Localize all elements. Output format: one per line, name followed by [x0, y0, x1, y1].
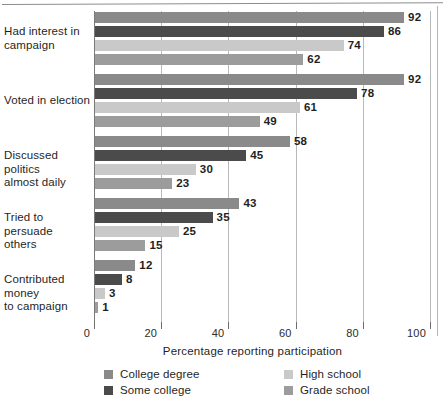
bar-value-label: 43 [239, 198, 256, 209]
axis-tick [228, 322, 229, 329]
axis-tick [363, 322, 364, 329]
bar-value-label: 61 [300, 102, 317, 113]
plot-area: 020406080100 928674629278614958453023433… [94, 11, 430, 322]
bar [95, 54, 303, 65]
bar-chart-figure: Had interest incampaignVoted in election… [0, 0, 445, 401]
bar-value-label: 62 [303, 54, 320, 65]
axis-tick-label: 40 [212, 327, 229, 339]
axis-tick [430, 322, 431, 329]
x-axis-title-text: Percentage reporting participation [103, 345, 342, 357]
bar [95, 74, 404, 85]
chart-legend: College degreeSome collegeHigh schoolGra… [104, 368, 404, 400]
axis-tick [94, 322, 95, 329]
bar-value-label: 86 [384, 26, 401, 37]
category-label-line: Contributed money [4, 273, 92, 300]
axis-tick-label: 20 [145, 327, 162, 339]
bar [95, 136, 290, 147]
axis-tick-label: 80 [346, 327, 363, 339]
legend-swatch-icon [284, 370, 293, 379]
bar-value-label: 74 [344, 40, 361, 51]
bar [95, 226, 179, 237]
category-label-line: others [4, 238, 92, 252]
bar [95, 26, 384, 37]
bar [95, 164, 196, 175]
category-label: Had interest incampaign [4, 25, 92, 52]
bar [95, 212, 213, 223]
category-axis-labels: Had interest incampaignVoted in election… [4, 11, 92, 322]
legend-label: Grade school [300, 384, 370, 396]
bar-value-label: 92 [404, 74, 421, 85]
category-label-line: to campaign [4, 300, 92, 314]
bar [95, 150, 246, 161]
bar-value-label: 25 [179, 226, 196, 237]
axis-tick [296, 322, 297, 329]
bar [95, 288, 105, 299]
bar-value-label: 30 [196, 164, 213, 175]
bar [95, 88, 357, 99]
category-label: Voted in election [4, 94, 92, 108]
bar-value-label: 1 [98, 302, 109, 313]
bar-value-label: 92 [404, 12, 421, 23]
bar [95, 260, 135, 271]
category-label-line: Had interest in [4, 25, 92, 39]
bar-value-label: 35 [213, 212, 230, 223]
legend-item[interactable]: College degree [104, 368, 199, 380]
bar-value-label: 12 [135, 260, 152, 271]
legend-swatch-icon [104, 386, 113, 395]
legend-item[interactable]: High school [284, 368, 361, 380]
page-edge-right-rule [437, 6, 438, 336]
bar-value-label: 23 [172, 178, 189, 189]
legend-swatch-icon [104, 370, 113, 379]
bar [95, 12, 404, 23]
bar [95, 274, 122, 285]
axis-tick [161, 322, 162, 329]
bar [95, 40, 344, 51]
bar-value-label: 58 [290, 136, 307, 147]
bar [95, 198, 239, 209]
gridline [430, 11, 431, 322]
bar-value-label: 3 [105, 288, 116, 299]
legend-label: College degree [120, 368, 199, 380]
category-label-line: Voted in election [4, 94, 92, 108]
x-axis-title: Percentage reporting participation [0, 345, 445, 357]
page-edge-top-rule [2, 2, 443, 5]
axis-tick-label: 60 [279, 327, 296, 339]
category-label-line: campaign [4, 39, 92, 53]
category-label-line: almost daily [4, 176, 92, 190]
legend-item[interactable]: Grade school [284, 384, 370, 396]
bar [95, 240, 145, 251]
bar-value-label: 15 [145, 240, 162, 251]
bar-value-label: 49 [260, 116, 277, 127]
bar-value-label: 78 [357, 88, 374, 99]
legend-item[interactable]: Some college [104, 384, 191, 396]
bar [95, 116, 260, 127]
bar [95, 178, 172, 189]
legend-label: Some college [120, 384, 191, 396]
bar-value-label: 45 [246, 150, 263, 161]
gridline [363, 11, 364, 322]
bar [95, 102, 300, 113]
category-label-line: Discussed politics [4, 149, 92, 176]
legend-label: High school [300, 368, 361, 380]
category-label: Tried to persuadeothers [4, 211, 92, 252]
legend-swatch-icon [284, 386, 293, 395]
axis-tick-label: 0 [84, 327, 94, 339]
category-label: Discussed politicsalmost daily [4, 149, 92, 190]
axis-tick-label: 100 [407, 327, 430, 339]
category-label-line: Tried to persuade [4, 211, 92, 238]
bar-value-label: 8 [122, 274, 133, 285]
category-label: Contributed moneyto campaign [4, 273, 92, 314]
